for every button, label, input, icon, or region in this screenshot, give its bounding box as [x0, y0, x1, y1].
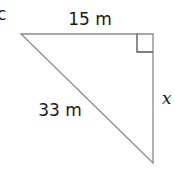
right-angle-marker: [137, 34, 153, 52]
top-side-label: 15 m: [68, 9, 112, 29]
right-side-label: x: [162, 88, 172, 108]
triangle-diagram: c 15 m 33 m x: [0, 0, 175, 175]
triangle-shape: [21, 34, 153, 163]
corner-label: c: [0, 4, 6, 24]
hypotenuse-label: 33 m: [38, 100, 82, 120]
